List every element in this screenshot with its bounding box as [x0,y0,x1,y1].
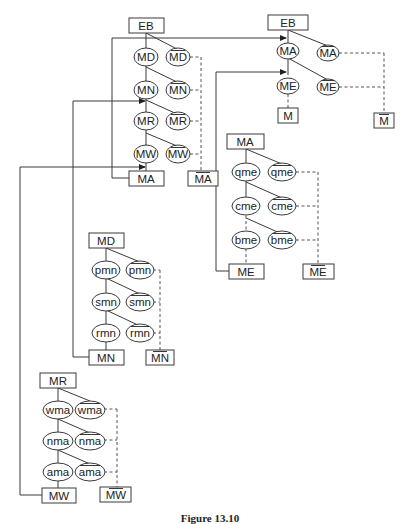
tree-eb-mid: EB MD MD MN MN MR MR MW MW MA MA [129,18,218,186]
svg-text:MN: MN [169,84,187,96]
svg-text:bme: bme [271,234,293,246]
svg-text:MW: MW [49,490,70,502]
svg-text:MR: MR [137,115,155,127]
svg-text:MA: MA [137,173,155,185]
feedback-line-mn-to-mid [73,101,145,357]
svg-text:nma: nma [79,435,102,447]
tree-ma: MA qme qme cme cme bme bme ME ME [227,134,334,279]
svg-text:MW: MW [106,489,127,501]
tree-md: MD pmn pmn smn smn rmn rmn MN MN [89,233,174,365]
svg-text:ME: ME [309,266,327,278]
svg-text:pmn: pmn [95,264,117,276]
svg-text:smn: smn [129,296,151,308]
svg-text:MA: MA [279,45,297,57]
svg-text:MW: MW [168,148,189,160]
svg-text:M: M [379,115,389,127]
svg-text:MR: MR [169,115,187,127]
svg-text:rmn: rmn [96,327,116,339]
svg-text:nma: nma [47,435,70,447]
svg-text:MD: MD [97,235,115,247]
svg-text:qme: qme [235,166,257,178]
svg-text:MN: MN [137,84,155,96]
svg-text:MA: MA [236,136,254,148]
svg-text:wma: wma [77,404,103,416]
svg-text:ME: ME [279,80,297,92]
svg-text:MR: MR [49,375,67,387]
svg-text:smn: smn [95,296,117,308]
svg-text:MN: MN [151,352,169,364]
svg-text:MW: MW [136,148,157,160]
figure-caption: Figure 13.10 [181,512,240,524]
svg-text:bme: bme [235,234,257,246]
svg-text:pmn: pmn [129,264,151,276]
svg-text:cme: cme [271,200,293,212]
decision-tree-diagram: EB MA MA ME ME M M EB MD MD [0,0,419,524]
svg-text:rmn: rmn [130,327,150,339]
svg-text:ME: ME [237,266,255,278]
svg-text:qme: qme [271,166,293,178]
svg-text:MA: MA [319,47,337,59]
svg-text:MD: MD [169,51,187,63]
svg-text:ME: ME [319,81,337,93]
svg-text:cme: cme [235,200,257,212]
svg-text:MD: MD [137,51,155,63]
svg-text:EB: EB [138,20,154,32]
svg-text:MA: MA [194,173,212,185]
svg-text:wma: wma [45,404,71,416]
svg-text:MN: MN [97,352,115,364]
svg-text:EB: EB [280,17,296,29]
tree-mr: MR wma wma nma nma ama ama MW MW [40,373,131,503]
svg-text:ama: ama [79,466,102,478]
svg-text:ama: ama [47,466,70,478]
svg-text:M: M [283,110,293,122]
tree-eb-top: EB MA MA ME ME M M [268,15,394,128]
